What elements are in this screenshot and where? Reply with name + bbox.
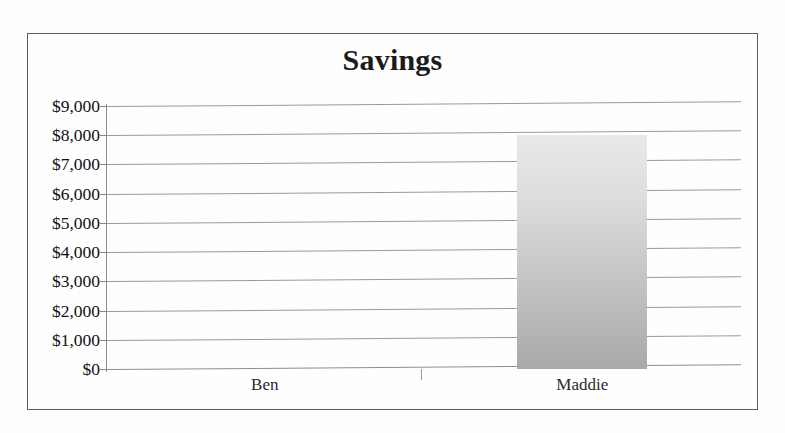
- value-axis-tick: [100, 164, 107, 165]
- value-axis-tick: [100, 340, 107, 341]
- value-axis-labels: $9,000$8,000$7,000$6,000$5,000$4,000$3,0…: [22, 106, 100, 369]
- value-axis-label: $7,000: [26, 154, 100, 175]
- value-axis-label: $6,000: [26, 183, 100, 204]
- value-axis-tick: [100, 281, 107, 282]
- chart-frame: Savings $9,000$8,000$7,000$6,000$5,000$4…: [27, 33, 758, 410]
- chart-title: Savings: [28, 43, 757, 77]
- category-axis-label: Maddie: [424, 375, 742, 395]
- value-axis-label: $4,000: [26, 242, 100, 263]
- value-axis-label: $0: [26, 359, 100, 380]
- value-axis-label: $9,000: [26, 96, 100, 117]
- value-axis-tick: [100, 311, 107, 312]
- bar: [517, 135, 647, 369]
- scanned-page: Savings $9,000$8,000$7,000$6,000$5,000$4…: [0, 0, 785, 433]
- category-axis-label: Ben: [106, 375, 424, 395]
- value-axis-tick: [100, 369, 107, 370]
- gridline: [106, 101, 741, 107]
- value-axis-label: $8,000: [26, 125, 100, 146]
- value-axis-tick: [100, 252, 107, 253]
- value-axis-tick: [100, 106, 107, 107]
- value-axis-tick: [100, 135, 107, 136]
- value-axis-line: [106, 104, 107, 372]
- value-axis-tick: [100, 223, 107, 224]
- value-axis-label: $3,000: [26, 271, 100, 292]
- value-axis-label: $1,000: [26, 329, 100, 350]
- value-axis-tick: [100, 194, 107, 195]
- category-axis-labels: BenMaddie: [106, 375, 741, 405]
- plot-area: [106, 106, 741, 369]
- value-axis-label: $5,000: [26, 212, 100, 233]
- value-axis-label: $2,000: [26, 300, 100, 321]
